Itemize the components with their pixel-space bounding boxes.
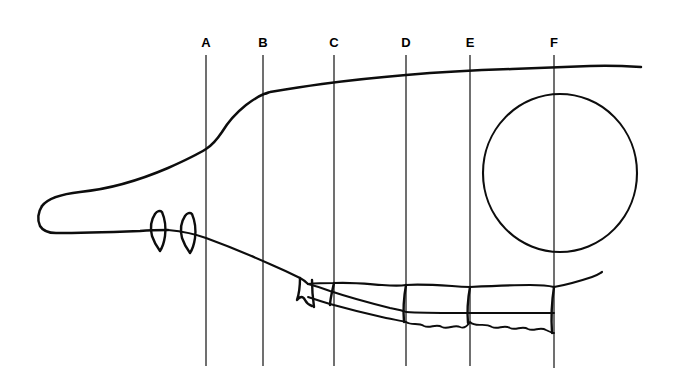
toothrow-occlusal-stroke: [308, 297, 554, 333]
skull-diagram-svg: [0, 0, 674, 389]
reference-label-b: B: [258, 36, 267, 49]
reference-label-e: E: [466, 36, 475, 49]
dorsal-profile-stroke: [42, 66, 641, 206]
rostrum-ventral-stroke: [38, 206, 168, 233]
orbit-circle: [483, 94, 637, 252]
maxillary-line-stroke: [168, 230, 308, 284]
reference-line-group: [206, 55, 554, 368]
reference-label-a: A: [201, 36, 210, 49]
reference-label-f: F: [550, 36, 558, 49]
skull-outline-group: [38, 66, 641, 333]
palate-line-stroke: [308, 283, 554, 287]
jaw-upper-stroke: [554, 272, 602, 287]
reference-label-c: C: [329, 36, 338, 49]
figure-root: A B C D E F: [0, 0, 674, 389]
reference-label-d: D: [401, 36, 410, 49]
